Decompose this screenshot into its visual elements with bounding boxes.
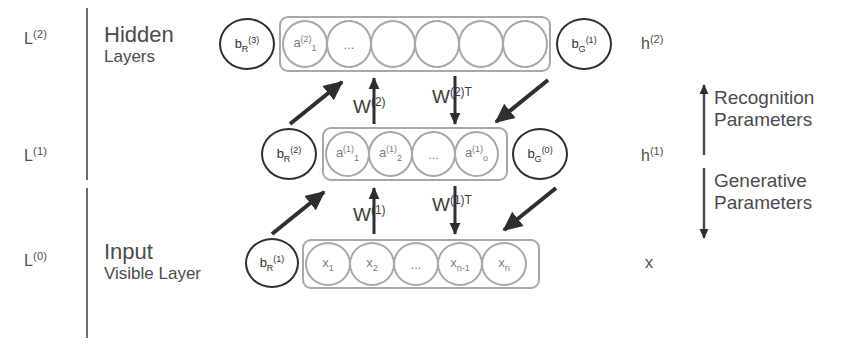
node-xn-1[interactable]: xn-1 <box>437 242 483 286</box>
bias-node-bg1-label: bG(1) <box>571 35 596 54</box>
bias-node-bg0[interactable]: bG(0) <box>512 128 568 180</box>
node-a2-4[interactable] <box>414 20 460 68</box>
left-label-level-2: L(2) <box>24 28 47 48</box>
left-divider-upper <box>86 8 88 180</box>
generative-parameters-line1: Generative <box>714 170 812 192</box>
weight-label-w1-transpose: W(1)T <box>432 193 472 216</box>
node-a2-ellipsis-label: ... <box>344 38 355 51</box>
node-a2-ellipsis[interactable]: ... <box>326 20 372 68</box>
node-a1-o[interactable]: a(1)o <box>454 131 499 177</box>
arrow-generative-bias-l1-to-l0 <box>504 188 556 230</box>
hidden-layer-1-box: a(1)1 a(1)2 ... a(1)o <box>322 127 508 181</box>
node-a1-o-label: a(1)o <box>465 145 488 163</box>
weight-label-w1: W(1) <box>353 203 386 226</box>
node-a2-6[interactable] <box>502 20 548 68</box>
bias-node-br2-label: bR(2) <box>277 145 302 164</box>
right-label-h1: h(1) <box>641 145 663 165</box>
left-label-level-1-base: L <box>24 147 33 164</box>
node-a1-ellipsis-label: ... <box>428 148 439 161</box>
right-label-h2: h(2) <box>641 33 663 53</box>
node-xn-label: xn <box>498 256 510 273</box>
bias-node-bg0-label: bG(0) <box>527 145 552 164</box>
bias-node-br1-label: bR(1) <box>260 254 285 273</box>
node-x2-label: x2 <box>366 256 378 273</box>
bias-node-bg1[interactable]: bG(1) <box>556 18 612 70</box>
left-label-level-1: L(1) <box>24 145 47 165</box>
diagram-canvas: L(2) L(1) L(0) Hidden Layers Input Visib… <box>0 0 864 348</box>
hidden-section-title: Hidden <box>104 23 174 47</box>
recognition-parameters-caption: Recognition Parameters <box>714 87 814 131</box>
bias-node-br3[interactable]: bR(3) <box>219 18 275 70</box>
node-a1-1[interactable]: a(1)1 <box>325 131 370 177</box>
generative-parameters-caption: Generative Parameters <box>714 170 812 214</box>
node-a1-ellipsis[interactable]: ... <box>411 131 456 177</box>
arrow-recognition-bias-l1-to-l2 <box>290 82 342 124</box>
node-a2-5[interactable] <box>458 20 504 68</box>
node-a1-1-label: a(1)1 <box>336 145 359 163</box>
left-label-level-1-sup: (1) <box>33 145 47 157</box>
arrow-generative-bias-l2-to-l1 <box>496 80 548 122</box>
input-section-subtitle: Visible Layer <box>104 264 201 284</box>
node-x1[interactable]: x1 <box>305 242 351 286</box>
node-xn-1-label: xn-1 <box>450 256 470 273</box>
left-label-level-2-base: L <box>24 30 33 47</box>
node-a2-1-label: a(2)1 <box>293 35 316 53</box>
bias-node-br2[interactable]: bR(2) <box>261 128 317 180</box>
hidden-section-subtitle: Layers <box>104 47 174 67</box>
left-label-level-0-sup: (0) <box>33 250 47 262</box>
input-section-title: Input <box>104 240 201 264</box>
node-a2-3[interactable] <box>370 20 416 68</box>
node-x-ellipsis-label: ... <box>411 258 422 271</box>
weight-label-w2-transpose: W(2)T <box>432 85 472 108</box>
visible-layer-0-box: x1 x2 ... xn-1 xn <box>302 239 540 289</box>
weight-label-w2: W(2) <box>353 95 386 118</box>
generative-parameters-line2: Parameters <box>714 192 812 214</box>
bias-node-br3-label: bR(3) <box>235 35 260 54</box>
hidden-section: Hidden Layers <box>104 23 174 67</box>
hidden-layer-2-box: a(2)1 ... <box>279 16 551 72</box>
node-x1-label: x1 <box>322 256 334 273</box>
recognition-parameters-line2: Parameters <box>714 109 814 131</box>
right-label-x: x <box>645 252 653 272</box>
arrow-recognition-bias-l0-to-l1 <box>272 192 324 234</box>
node-a1-2-label: a(1)2 <box>379 145 402 163</box>
node-a1-2[interactable]: a(1)2 <box>368 131 413 177</box>
node-xn[interactable]: xn <box>481 242 527 286</box>
left-label-level-0-base: L <box>24 252 33 269</box>
node-a2-1[interactable]: a(2)1 <box>282 20 328 68</box>
recognition-parameters-line1: Recognition <box>714 87 814 109</box>
bias-node-br1[interactable]: bR(1) <box>245 238 299 288</box>
left-divider-lower <box>86 188 88 338</box>
node-x2[interactable]: x2 <box>349 242 395 286</box>
input-section: Input Visible Layer <box>104 240 201 284</box>
left-label-level-2-sup: (2) <box>33 28 47 40</box>
left-label-level-0: L(0) <box>24 250 47 270</box>
node-x-ellipsis[interactable]: ... <box>393 242 439 286</box>
